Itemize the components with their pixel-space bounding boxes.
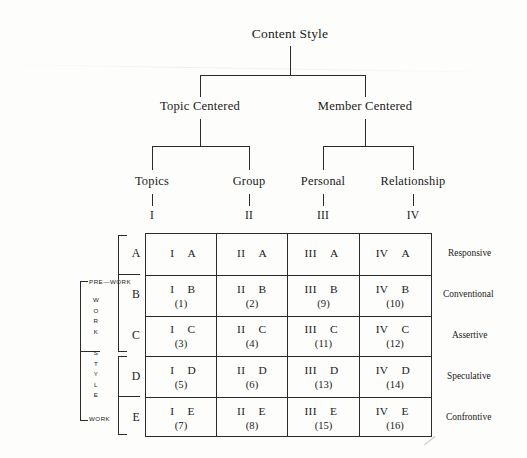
- row-letter-e: E: [129, 410, 143, 425]
- column-numeral-ii: II: [245, 209, 253, 222]
- matrix-cell-ii-d[interactable]: IID (6): [217, 357, 287, 397]
- matrix-cell-iii-a[interactable]: IIIA: [288, 234, 359, 275]
- matrix-cell-iv-b[interactable]: IVB (10): [360, 276, 430, 316]
- cell-numeral: III: [297, 323, 317, 335]
- cell-numeral: III: [297, 283, 317, 295]
- cell-number: (6): [246, 379, 258, 390]
- cell-letter: D: [330, 364, 350, 376]
- cell-numeral: IV: [369, 364, 389, 376]
- cell-numeral: II: [226, 364, 246, 376]
- cell-number: (1): [175, 298, 187, 309]
- matrix-cell-ii-a[interactable]: IIA: [217, 234, 287, 275]
- node-topics: Topics: [135, 174, 169, 189]
- connector-topic-centered-down: [200, 119, 201, 146]
- row-letter-c: C: [129, 328, 143, 343]
- matrix-cell-iv-a[interactable]: IVA: [360, 234, 430, 275]
- matrix-cell-iv-c[interactable]: IVC (12): [360, 317, 430, 357]
- cell-letter: B: [259, 283, 279, 295]
- connector-group-to-numeral: [249, 194, 250, 206]
- axis-letter-y: Y: [88, 369, 104, 380]
- axis-letter-space: [88, 337, 104, 348]
- column-numeral-i: I: [150, 209, 154, 222]
- matrix-cell-iv-d[interactable]: IVD (14): [360, 357, 430, 397]
- cell-number: (16): [386, 420, 404, 431]
- cell-number: (13): [315, 379, 333, 390]
- connector-to-topics: [152, 146, 153, 170]
- cell-numeral: I: [155, 364, 175, 376]
- cell-number: (4): [246, 338, 258, 349]
- matrix-cell-iii-c[interactable]: IIIC (11): [288, 317, 359, 357]
- cell-letter: B: [330, 283, 350, 295]
- matrix-cell-i-b[interactable]: IB (1): [146, 276, 216, 316]
- connector-to-topic-centered: [200, 75, 201, 97]
- connector-member-centered-down: [365, 119, 366, 146]
- matrix-cell-ii-e[interactable]: IIE (8): [217, 398, 287, 438]
- cell-number: (14): [386, 379, 404, 390]
- cell-number: (10): [386, 298, 404, 309]
- cell-letter: C: [330, 323, 350, 335]
- cell-number: (15): [315, 420, 333, 431]
- cell-letter: B: [188, 283, 208, 295]
- cell-numeral: II: [226, 247, 246, 259]
- diagram-canvas: Content Style Topic Centered Member Cent…: [0, 0, 527, 458]
- matrix-cell-i-c[interactable]: IC (3): [146, 317, 216, 357]
- cell-number: (8): [246, 420, 258, 431]
- axis-letter-l: L: [88, 380, 104, 391]
- matrix-cell-iii-d[interactable]: IIID (13): [288, 357, 359, 397]
- cell-letter: E: [330, 405, 350, 417]
- matrix-cell-iii-b[interactable]: IIIB (9): [288, 276, 359, 316]
- axis-letter-s: S: [88, 348, 104, 359]
- cell-letter: A: [330, 247, 350, 259]
- cell-number: (3): [175, 338, 187, 349]
- cell-letter: E: [259, 405, 279, 417]
- matrix-cell-i-d[interactable]: ID (5): [146, 357, 216, 397]
- matrix-cell-ii-c[interactable]: IIC (4): [217, 317, 287, 357]
- connector-personal-to-numeral: [323, 194, 324, 206]
- cell-letter: E: [402, 405, 422, 417]
- matrix-row-d: ID (5) IID (6) IIID (13) IVD (14): [146, 356, 431, 397]
- matrix-cell-ii-b[interactable]: IIB (2): [217, 276, 287, 316]
- right-label-conventional: Conventional: [443, 289, 494, 299]
- cell-numeral: I: [155, 405, 175, 417]
- cell-number: (12): [386, 338, 404, 349]
- cell-numeral: I: [155, 323, 175, 335]
- matrix-cell-iii-e[interactable]: IIIE (15): [288, 398, 359, 438]
- row-bracket-de-tick: [118, 396, 140, 397]
- connector-root-horizontal: [200, 75, 366, 76]
- matrix-cell-i-a[interactable]: IA: [146, 234, 216, 275]
- axis-letter-w: W: [88, 295, 104, 306]
- row-letter-d: D: [129, 369, 143, 384]
- cell-numeral: I: [155, 283, 175, 295]
- left-axis-vertical-label: W O R K S T Y L E: [88, 295, 104, 401]
- left-axis-bottom-label: WORK: [89, 415, 110, 422]
- right-label-confrontive: Confrontive: [446, 412, 491, 422]
- cell-number: (2): [246, 298, 258, 309]
- scan-artifact-line: [0, 64, 527, 73]
- content-style-matrix: IA IIA IIIA IVA IB (1) IIB: [145, 233, 432, 437]
- column-numeral-iii: III: [317, 209, 329, 222]
- cell-number: (9): [317, 298, 329, 309]
- cell-letter: D: [188, 364, 208, 376]
- cell-numeral: III: [297, 364, 317, 376]
- matrix-cell-i-e[interactable]: IE (7): [146, 398, 216, 438]
- cell-letter: E: [188, 405, 208, 417]
- cell-number: (11): [315, 338, 332, 349]
- cell-letter: B: [402, 283, 422, 295]
- cell-numeral: II: [226, 283, 246, 295]
- cell-letter: C: [188, 323, 208, 335]
- node-personal: Personal: [301, 174, 345, 189]
- matrix-row-b: IB (1) IIB (2) IIIB (9) IVB (10): [146, 275, 431, 316]
- cell-letter: A: [402, 247, 422, 259]
- cell-numeral: II: [226, 323, 246, 335]
- cell-numeral: I: [155, 247, 175, 259]
- matrix-cell-iv-e[interactable]: IVE (16): [360, 398, 430, 438]
- axis-letter-t: T: [88, 359, 104, 370]
- row-letter-a: A: [129, 246, 143, 261]
- connector-root-down: [290, 46, 291, 75]
- cell-number: (7): [175, 420, 187, 431]
- cell-numeral: IV: [369, 405, 389, 417]
- axis-letter-o: O: [88, 306, 104, 317]
- connector-to-group: [249, 146, 250, 170]
- connector-to-member-centered: [365, 75, 366, 97]
- cell-numeral: II: [226, 405, 246, 417]
